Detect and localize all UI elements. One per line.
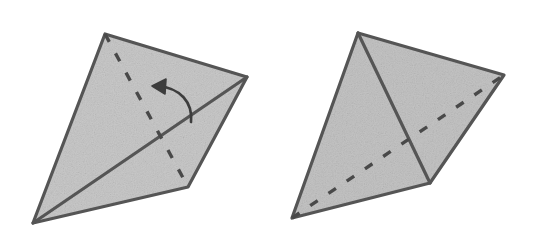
figure-canvas [0,0,535,246]
